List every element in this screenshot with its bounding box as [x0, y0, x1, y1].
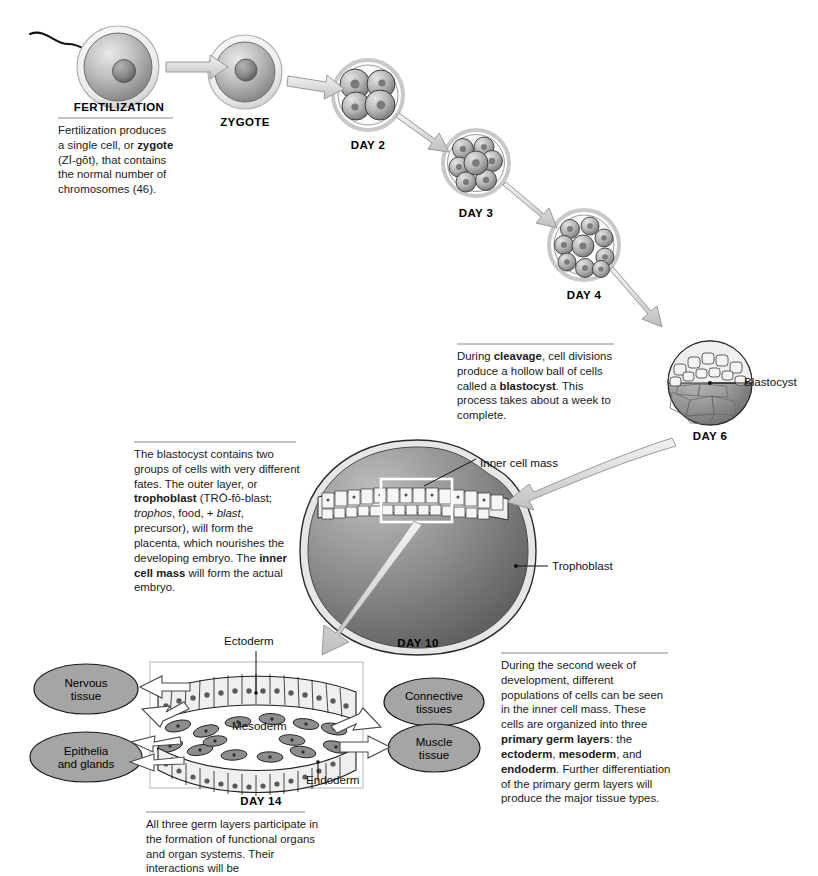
callout-blastocyst-description: The blastocyst contains two groups of ce… — [134, 447, 300, 595]
stage-day2-cell — [333, 60, 403, 130]
stage-label-zygote: ZYGOTE — [196, 116, 294, 128]
stage-label-day6: DAY 6 — [672, 430, 748, 442]
callout-second-week: During the second week of development, d… — [501, 658, 671, 806]
stage-day10-blastocyst — [300, 440, 548, 655]
label-mesoderm: Mesoderm — [232, 719, 287, 732]
label-endoderm: Endoderm — [306, 773, 360, 786]
stage-fertilization-cell — [77, 26, 159, 108]
callout-fertilization: Fertilization produces a single cell, or… — [58, 123, 182, 197]
stage-label-day3: DAY 3 — [438, 207, 514, 219]
callout-germ-layers-bottom: All three germ layers participate in the… — [146, 817, 326, 876]
stage-day3-cell — [443, 130, 509, 196]
label-ectoderm: Ectoderm — [224, 634, 274, 647]
tissue-oval-epithelia — [30, 732, 142, 782]
stage-label-day2: DAY 2 — [330, 139, 406, 151]
stage-label-fertilization: FERTILIZATION — [60, 101, 178, 113]
stage-day4-cell — [549, 210, 619, 280]
tissue-oval-connective — [384, 678, 484, 726]
stage-label-day14: DAY 14 — [223, 795, 299, 807]
tissue-oval-nervous — [34, 664, 138, 714]
callout-cleavage: During cleavage, cell divisions produce … — [457, 349, 617, 423]
stage-label-day4: DAY 4 — [546, 289, 622, 301]
stage-day6-blastocyst — [668, 341, 752, 425]
label-trophoblast: Trophoblast — [552, 559, 613, 572]
stage-label-day10: DAY 10 — [380, 637, 456, 649]
label-blastocyst: Blastocyst — [744, 375, 797, 388]
tissue-oval-muscle — [388, 724, 480, 772]
label-inner-cell-mass: Inner cell mass — [480, 456, 558, 469]
